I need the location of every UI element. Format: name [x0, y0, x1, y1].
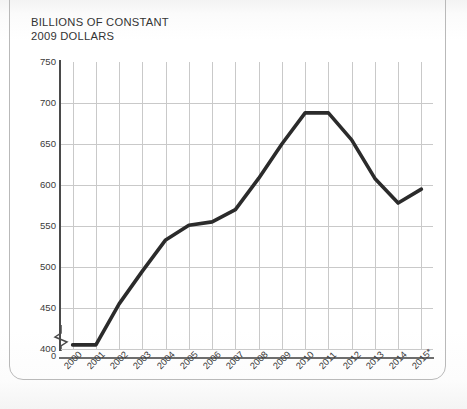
y-axis-origin-label: 0 [24, 351, 56, 361]
x-axis-tick-label: 2007 [224, 349, 246, 371]
y-axis-tick-label: 450 [24, 302, 56, 313]
x-axis-tick-label: 2002 [108, 349, 130, 371]
x-axis-tick-label: 2005 [178, 349, 200, 371]
y-axis-tick-label: 650 [24, 138, 56, 149]
plot-area [61, 62, 433, 349]
x-axis-tick-label: 2009 [271, 349, 293, 371]
x-axis-tick-label: 2001 [85, 349, 107, 371]
x-axis-tick-label: 2003 [131, 349, 153, 371]
y-axis-tick-label: 550 [24, 220, 56, 231]
x-axis-tick-label: 2000 [62, 349, 84, 371]
data-series-line [61, 62, 433, 349]
x-axis-tick-labels: 2000200120022003200420052006200720082009… [0, 364, 467, 409]
x-axis-tick-label: 2010 [294, 349, 316, 371]
y-axis-tick-label: 750 [24, 56, 56, 67]
y-axis-tick-label: 600 [24, 179, 56, 190]
x-axis-tick-label: 2012 [341, 349, 363, 371]
x-axis-tick-label: 2014 [387, 349, 409, 371]
x-axis-tick-label: 2004 [155, 349, 177, 371]
x-axis-tick-label: 2008 [248, 349, 270, 371]
x-axis-tick-label: 2011 [317, 350, 338, 371]
y-axis-tick-label: 500 [24, 261, 56, 272]
y-axis-tick-label: 700 [24, 97, 56, 108]
x-axis-tick-label: 2013 [364, 349, 386, 371]
x-axis-tick-label: 2006 [201, 349, 223, 371]
chart-page: BILLIONS OF CONSTANT 2009 DOLLARS 400450… [0, 0, 467, 409]
